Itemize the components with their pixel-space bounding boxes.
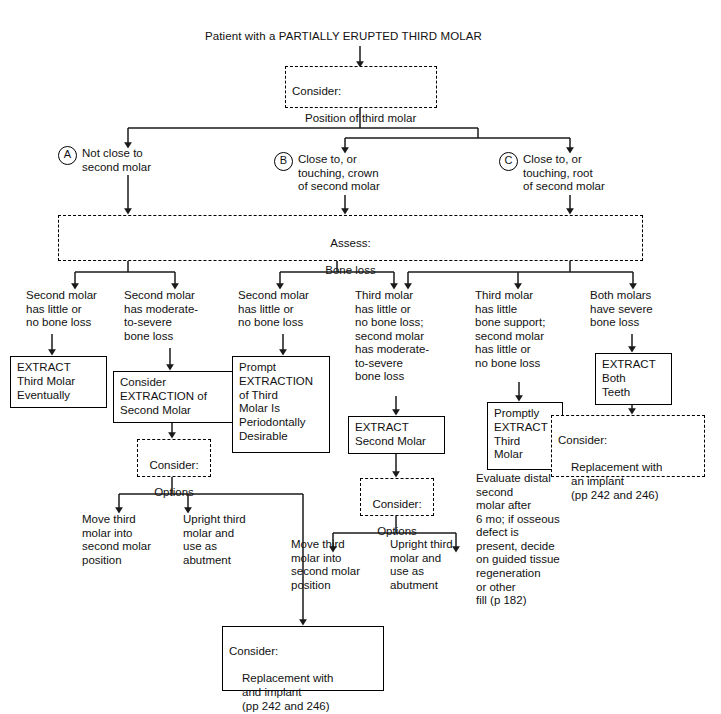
branch-marker-c: C	[499, 152, 518, 171]
action-extract-third-molar-eventually: EXTRACT Third Molar Eventually	[10, 356, 107, 408]
action-consider-extraction-second-molar: Consider EXTRACTION of Second Molar	[113, 371, 233, 423]
replacement-solid-line2: Replacement with	[229, 672, 333, 686]
outcome-move-third-molar-left: Move third molar into second molar posit…	[82, 513, 182, 567]
replacement-solid-line3: and implant	[229, 686, 301, 700]
condition-second-molar-little-bone-loss-a: Second molar has little or no bone loss	[26, 289, 130, 330]
outcome-move-third-molar-middle: Move third molar into second molar posit…	[291, 538, 391, 592]
branch-marker-b: B	[274, 152, 293, 171]
consider-position-line1: Consider:	[292, 85, 430, 99]
condition-third-molar-little-support: Third molar has little bone support; sec…	[475, 289, 579, 370]
consider-options-left-line1: Consider:	[144, 459, 204, 473]
branch-label-b: Close to, or touching, crown of second m…	[298, 153, 410, 194]
replacement-solid-line1: Consider:	[229, 645, 377, 659]
condition-second-molar-moderate-severe: Second molar has moderate- to-severe bon…	[124, 289, 224, 343]
assess-line1: Assess:	[65, 237, 636, 251]
action-prompt-extraction-third-molar: Prompt EXTRACTION of Third Molar Is Peri…	[232, 356, 330, 453]
condition-second-molar-little-bone-loss-b: Second molar has little or no bone loss	[238, 289, 342, 330]
action-extract-second-molar: EXTRACT Second Molar	[348, 416, 445, 454]
consider-options-left-box: Consider: Options	[137, 439, 211, 477]
condition-both-molars-severe: Both molars have severe bone loss	[590, 289, 694, 330]
consider-position-box: Consider: Position of third molar	[285, 66, 437, 108]
replacement-dashed-line3: an implant	[558, 475, 624, 489]
replacement-implant-dashed-box: Consider: Replacement with an implant (p…	[551, 415, 705, 477]
branch-label-c: Close to, or touching, root of second mo…	[523, 153, 635, 194]
assess-line2: Bone loss	[65, 264, 636, 278]
consider-position-line2: Position of third molar	[292, 112, 416, 126]
replacement-dashed-line2: Replacement with	[558, 461, 662, 475]
replacement-implant-solid-box: Consider: Replacement with and implant (…	[222, 626, 384, 691]
branch-label-a: Not close to second molar	[82, 147, 192, 174]
condition-third-molar-little-second-moderate: Third molar has little or no bone loss; …	[355, 289, 459, 384]
branch-marker-a: A	[58, 146, 77, 165]
action-extract-both-teeth: EXTRACT Both Teeth	[595, 353, 672, 405]
consider-options-left-line2: Options	[144, 486, 204, 500]
page-title: Patient with a PARTIALLY ERUPTED THIRD M…	[205, 30, 482, 42]
replacement-solid-line4: (pp 242 and 246)	[229, 700, 330, 714]
consider-options-middle-box: Consider: Options	[360, 478, 434, 516]
assess-bone-loss-box: Assess: Bone loss	[58, 215, 643, 261]
replacement-dashed-line4: (pp 242 and 246)	[558, 489, 659, 503]
consider-options-middle-line1: Consider:	[367, 498, 427, 512]
replacement-dashed-line1: Consider:	[558, 434, 698, 448]
outcome-upright-third-molar-middle: Upright third molar and use as abutment	[390, 538, 490, 592]
outcome-upright-third-molar-left: Upright third molar and use as abutment	[183, 513, 283, 567]
